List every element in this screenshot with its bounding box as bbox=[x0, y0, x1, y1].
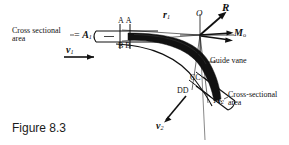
moment-symbol: M bbox=[234, 27, 243, 38]
velocity-2-subscript: 2 bbox=[160, 124, 163, 131]
section-b-prime-label: B bbox=[125, 41, 132, 50]
section-c-prime-label: C bbox=[195, 73, 200, 82]
radius-2-subscript: 2 bbox=[195, 51, 198, 58]
section-a-prime-label: A bbox=[126, 16, 134, 25]
radius-2-label: r2 bbox=[191, 48, 198, 59]
section-a-label: A bbox=[118, 16, 126, 25]
resultant-force-arrow bbox=[200, 12, 227, 35]
section-c-labels: CC bbox=[190, 74, 201, 82]
cross-sectional-area-2-label: Cross-sectional area bbox=[228, 91, 277, 108]
section-d-labels: DD bbox=[177, 87, 189, 95]
velocity-1-label: v1 bbox=[66, 45, 74, 56]
area-2-symbol-label: A2 bbox=[214, 95, 224, 106]
radius-1-label: r1 bbox=[163, 10, 170, 21]
resultant-force-label: R bbox=[222, 2, 229, 14]
velocity-2-label: v2 bbox=[156, 121, 164, 132]
section-b-labels: BB bbox=[118, 42, 133, 50]
guide-vane-label: Guide vane bbox=[210, 57, 247, 65]
radius-1-subscript: 1 bbox=[167, 13, 170, 20]
area-2-symbol: A bbox=[214, 94, 221, 105]
area-1-subscript: 1 bbox=[89, 33, 92, 40]
cross-sectional-area-1-line2: area bbox=[12, 35, 61, 43]
area-2-subscript: 2 bbox=[221, 98, 224, 105]
cross-sectional-area-1-label: Cross sectional area bbox=[12, 27, 61, 44]
figure-caption: Figure 8.3 bbox=[12, 122, 66, 135]
section-a-labels: AA bbox=[118, 17, 134, 25]
moment-label: Mo bbox=[234, 28, 246, 39]
area-1-symbol: A bbox=[82, 29, 89, 40]
area-1-symbol-label: = A1 bbox=[74, 30, 92, 41]
velocity-2-arrow bbox=[164, 96, 186, 123]
origin-point-label: O bbox=[196, 9, 203, 18]
figure-8-3: Cross sectional area = A1 v1 AA BB r1 O … bbox=[0, 0, 289, 145]
section-d-prime-label: D bbox=[183, 86, 189, 95]
moment-arrow bbox=[200, 30, 234, 42]
cross-sectional-area-2-line2: area bbox=[228, 99, 277, 107]
area-1-equals-sign: = bbox=[74, 29, 82, 40]
moment-subscript: o bbox=[243, 31, 246, 38]
velocity-1-subscript: 1 bbox=[70, 48, 73, 55]
